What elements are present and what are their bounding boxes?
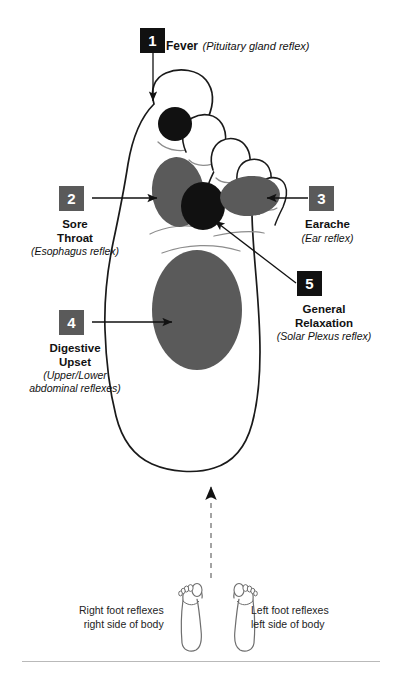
label-number-box-3[interactable]: 3 (309, 186, 334, 211)
label-group-2: Sore Throat (Esophagus reflex) (0, 218, 150, 258)
label-number-box-5[interactable]: 5 (297, 271, 322, 296)
label-subtitle-3: (Ear reflex) (253, 232, 402, 244)
mini-foot-right (179, 584, 202, 652)
label-title-5-line1: General (246, 303, 402, 317)
legend-left-foot: Left foot reflexes left side of body (251, 604, 329, 631)
label-title-4-line1: Digestive (0, 342, 150, 356)
label-subtitle-4-line1: (Upper/Lower (0, 369, 150, 381)
label-group-5: General Relaxation (Solar Plexus reflex) (246, 303, 402, 343)
label-number-2: 2 (67, 190, 75, 207)
label-subtitle-1: (Pituitary gland reflex) (202, 40, 309, 52)
label-subtitle-2: (Esophagus reflex) (0, 245, 150, 257)
label-number-box-1[interactable]: 1 (140, 28, 165, 53)
label-subtitle-4-line2: abdominal reflexes) (0, 382, 150, 394)
legend-left-line2: left side of body (251, 618, 329, 632)
zone-abdominal (152, 250, 242, 370)
label-group-3: Earache (Ear reflex) (253, 218, 402, 244)
label-title-4-line2: Upset (0, 356, 150, 370)
label-number-box-2[interactable]: 2 (59, 186, 84, 211)
label-number-1: 1 (148, 32, 156, 49)
label-group-4: Digestive Upset (Upper/Lower abdominal r… (0, 342, 150, 394)
label-title-3-line1: Earache (253, 218, 402, 232)
legend-left-line1: Left foot reflexes (251, 604, 329, 618)
zone-pituitary (158, 107, 192, 141)
legend-right-line1: Right foot reflexes (79, 604, 164, 618)
label-title-2-line1: Sore (0, 218, 150, 232)
label-number-5: 5 (305, 275, 313, 292)
reflexology-chart: 1 Fever (Pituitary gland reflex) 2 Sore … (0, 0, 402, 675)
label-subtitle-5: (Solar Plexus reflex) (246, 330, 402, 342)
label-title-2-line2: Throat (0, 232, 150, 246)
bottom-divider (22, 661, 380, 662)
label-number-3: 3 (317, 190, 325, 207)
legend-right-foot: Right foot reflexes right side of body (79, 604, 164, 631)
label-title-1: Fever (166, 39, 198, 53)
label-number-box-4[interactable]: 4 (59, 310, 84, 335)
label-group-1: Fever (Pituitary gland reflex) (166, 36, 309, 54)
legend-right-line2: right side of body (79, 618, 164, 632)
label-title-5-line2: Relaxation (246, 317, 402, 331)
label-number-4: 4 (67, 314, 75, 331)
